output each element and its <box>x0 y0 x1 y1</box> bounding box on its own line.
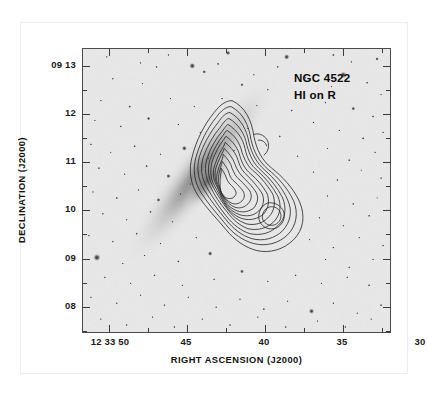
ytick-label-0: 09 13 <box>0 60 76 70</box>
ytick-right-5 <box>383 259 390 260</box>
ytick-right-6 <box>383 307 390 308</box>
xtick-top-3 <box>265 49 266 56</box>
overlay-caption-label: HI on R <box>294 87 350 104</box>
xtick-top-minor-3 <box>304 49 305 53</box>
figure-page: NGC 4522 HI on R 09 13 12 11 10 09 08 12… <box>0 0 428 402</box>
ytick-minor-5 <box>83 283 87 284</box>
ytick-right-minor-3 <box>386 186 390 187</box>
xtick-top-minor-2 <box>226 49 227 53</box>
xtick-minor-3 <box>304 328 305 332</box>
xtick-major-2 <box>187 325 188 332</box>
ytick-minor-4 <box>83 234 87 235</box>
xtick-label-4: 30 <box>415 337 426 347</box>
xtick-minor-4 <box>382 328 383 332</box>
object-name-label: NGC 4522 <box>294 70 350 87</box>
ytick-right-minor-2 <box>386 138 390 139</box>
ytick-label-2: 11 <box>0 156 76 166</box>
ytick-major-4 <box>83 210 90 211</box>
y-axis-title: DECLINATION (J2000) <box>17 137 27 243</box>
ytick-right-minor-6 <box>386 331 390 332</box>
xtick-top-4 <box>343 49 344 56</box>
sky-map-plot-area: NGC 4522 HI on R <box>82 48 391 333</box>
ytick-minor-6 <box>83 331 87 332</box>
xtick-top-minor-4 <box>382 49 383 53</box>
xtick-top-1 <box>109 49 110 56</box>
xtick-label-3: 35 <box>337 337 348 347</box>
ytick-right-2 <box>383 114 390 115</box>
xtick-top-minor-1 <box>148 49 149 53</box>
ytick-label-1: 12 <box>0 108 76 118</box>
xtick-label-2: 40 <box>259 337 270 347</box>
ytick-label-3: 10 <box>0 204 76 214</box>
ytick-minor-2 <box>83 138 87 139</box>
xtick-label-0: 12 33 50 <box>91 337 130 347</box>
ytick-major-3 <box>83 162 90 163</box>
ytick-major-6 <box>83 307 90 308</box>
xtick-label-1: 45 <box>181 337 192 347</box>
ytick-right-3 <box>383 162 390 163</box>
ytick-major-1 <box>83 66 90 67</box>
xtick-top-2 <box>187 49 188 56</box>
xtick-major-1 <box>109 325 110 332</box>
xtick-minor-2 <box>226 328 227 332</box>
ytick-major-2 <box>83 114 90 115</box>
ytick-label-5: 08 <box>0 301 76 311</box>
ytick-right-4 <box>383 210 390 211</box>
xtick-major-4 <box>343 325 344 332</box>
ytick-minor-1 <box>83 90 87 91</box>
ytick-major-5 <box>83 259 90 260</box>
x-axis-title: RIGHT ASCENSION (J2000) <box>82 355 391 365</box>
ytick-right-minor-5 <box>386 283 390 284</box>
ytick-label-4: 09 <box>0 253 76 263</box>
ytick-minor-3 <box>83 186 87 187</box>
xtick-minor-1 <box>148 328 149 332</box>
ytick-right-minor-1 <box>386 90 390 91</box>
figure-annotation: NGC 4522 HI on R <box>294 70 350 104</box>
ytick-right-1 <box>383 66 390 67</box>
ytick-right-minor-4 <box>386 234 390 235</box>
xtick-major-3 <box>265 325 266 332</box>
